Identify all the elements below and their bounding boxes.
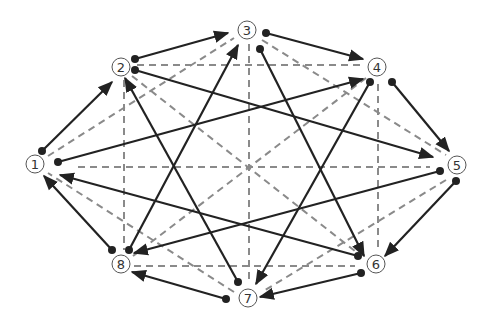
arrow-edge-2-to-3 bbox=[131, 33, 228, 63]
edge-start-dot-icon bbox=[222, 295, 230, 303]
arrow-edge-7-to-2 bbox=[125, 78, 242, 286]
node-7: 7 bbox=[239, 289, 257, 307]
arrow-line bbox=[260, 49, 364, 256]
edge-start-dot-icon bbox=[388, 78, 396, 86]
edge-start-dot-icon bbox=[436, 167, 444, 175]
edge-start-dot-icon bbox=[131, 55, 139, 63]
node-label: 5 bbox=[453, 158, 461, 173]
edge-start-dot-icon bbox=[354, 252, 362, 260]
arrow-line bbox=[42, 82, 112, 151]
node-label: 6 bbox=[372, 257, 380, 272]
node-label: 8 bbox=[117, 257, 125, 272]
node-4: 4 bbox=[368, 58, 386, 76]
edge-start-dot-icon bbox=[234, 278, 242, 286]
arrow-edge-6-to-1 bbox=[60, 175, 362, 260]
graph-diagram: 12345678 bbox=[0, 0, 493, 323]
node-label: 1 bbox=[31, 157, 39, 172]
node-3: 3 bbox=[238, 21, 256, 39]
node-6: 6 bbox=[367, 255, 385, 273]
arrow-line bbox=[60, 175, 358, 256]
edge-start-dot-icon bbox=[452, 177, 460, 185]
nodes: 12345678 bbox=[26, 21, 466, 307]
edge-start-dot-icon bbox=[357, 269, 365, 277]
arrow-edge-3-to-6 bbox=[256, 45, 364, 256]
edge-start-dot-icon bbox=[262, 29, 270, 37]
edge-start-dot-icon bbox=[38, 147, 46, 155]
edge-start-dot-icon bbox=[125, 246, 133, 254]
arrow-edge-4-to-5 bbox=[388, 78, 449, 151]
arrow-line bbox=[385, 181, 456, 256]
node-1: 1 bbox=[26, 155, 44, 173]
node-label: 2 bbox=[117, 60, 125, 75]
arrow-line bbox=[392, 82, 449, 151]
node-2: 2 bbox=[112, 58, 130, 76]
node-label: 4 bbox=[373, 60, 381, 75]
arrow-edge-3-to-4 bbox=[262, 29, 363, 59]
edge-start-dot-icon bbox=[256, 45, 264, 53]
arrow-edge-2-to-5 bbox=[131, 66, 433, 157]
arrow-line bbox=[266, 33, 363, 59]
arrow-edge-5-to-6 bbox=[385, 177, 460, 256]
arrow-line bbox=[135, 33, 228, 59]
arrow-edge-7-to-8 bbox=[132, 272, 230, 303]
edge-start-dot-icon bbox=[54, 158, 62, 166]
node-label: 3 bbox=[243, 23, 251, 38]
node-5: 5 bbox=[448, 156, 466, 174]
arrow-line bbox=[260, 273, 361, 297]
edge-start-dot-icon bbox=[131, 66, 139, 74]
node-label: 7 bbox=[244, 291, 252, 306]
edge-start-dot-icon bbox=[366, 78, 374, 86]
arrow-edge-8-to-3 bbox=[125, 45, 238, 254]
arrow-edge-1-to-2 bbox=[38, 82, 112, 155]
node-8: 8 bbox=[112, 255, 130, 273]
arrow-line bbox=[132, 272, 226, 299]
edge-start-dot-icon bbox=[108, 246, 116, 254]
